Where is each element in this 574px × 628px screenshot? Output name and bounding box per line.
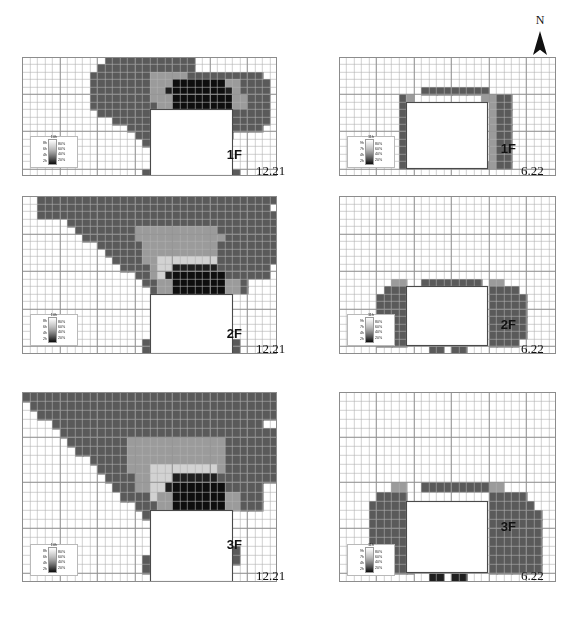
legend-summer: 9h 7h 4h 2h 80% 60% 40% 20% 11h — [347, 544, 395, 576]
legend-gradient-bar — [365, 547, 374, 573]
floor-label: 1F — [227, 147, 242, 162]
date-label-1f-winter: 12.21 — [256, 163, 285, 179]
legend-hour-tick: 8h — [43, 142, 47, 146]
legend-hour-tick: 8h — [43, 550, 47, 554]
legend-hour-tick: 6h — [43, 326, 47, 330]
floor-label: 1F — [501, 141, 516, 156]
panel-2f-winter: 2F 8h 6h 4h 2h 80% 60% 40% 20% 10h — [22, 196, 277, 354]
legend-percent-tick: 40% — [375, 153, 382, 157]
legend-hour-tick: 9h — [360, 550, 364, 554]
north-arrow: N — [523, 14, 557, 60]
legend-percent-tick: 60% — [375, 326, 382, 330]
legend-winter: 8h 6h 4h 2h 80% 60% 40% 20% 10h — [30, 314, 78, 346]
figure-canvas: N 1F 8h 6h 4h 2h 80% 60% 40% 20% — [0, 0, 574, 628]
legend-hour-tick: 9h — [360, 142, 364, 146]
legend-percent-tick: 80% — [58, 321, 65, 325]
legend-summer: 9h 7h 4h 2h 80% 60% 40% 20% 11h — [347, 136, 395, 168]
panel-1f-summer: 1F 9h 7h 4h 2h 80% 60% 40% 20% 11h — [339, 57, 556, 176]
legend-summer: 9h 7h 4h 2h 80% 60% 40% 20% 11h — [347, 314, 395, 346]
floor-label: 3F — [227, 537, 242, 552]
legend-percent-tick: 20% — [375, 337, 382, 341]
legend-hour-tick: 7h — [360, 148, 364, 152]
legend-gradient-bar — [365, 317, 374, 343]
legend-top-label: 11h — [368, 135, 374, 139]
floor-label: 3F — [501, 519, 516, 534]
legend-percent-tick: 80% — [375, 551, 382, 555]
legend-top-label: 11h — [368, 543, 374, 547]
panel-3f-winter: 3F 8h 6h 4h 2h 80% 60% 40% 20% 10h — [22, 392, 277, 582]
date-label-3f-winter: 12.21 — [256, 568, 285, 584]
legend-hour-tick: 4h — [360, 332, 364, 336]
legend-percent-tick: 80% — [375, 143, 382, 147]
legend-gradient-bar — [48, 139, 57, 165]
legend-percent-tick: 20% — [58, 567, 65, 571]
legend-hour-tick: 6h — [43, 556, 47, 560]
legend-hour-tick: 4h — [43, 154, 47, 158]
panel-1f-winter: 1F 8h 6h 4h 2h 80% 60% 40% 20% 10h — [22, 57, 277, 176]
legend-hour-tick: 2h — [43, 160, 47, 164]
legend-winter: 8h 6h 4h 2h 80% 60% 40% 20% 10h — [30, 136, 78, 168]
north-label: N — [523, 14, 557, 26]
legend-hour-tick: 2h — [360, 160, 364, 164]
legend-percent-tick: 20% — [375, 567, 382, 571]
legend-hour-tick: 2h — [360, 568, 364, 572]
panel-3f-summer: 3F 9h 7h 4h 2h 80% 60% 40% 20% 11h — [339, 392, 556, 582]
legend-percent-tick: 60% — [58, 148, 65, 152]
legend-percent-tick: 40% — [58, 561, 65, 565]
legend-hour-tick: 2h — [43, 338, 47, 342]
legend-top-label: 10h — [51, 543, 57, 547]
legend-percent-tick: 80% — [58, 143, 65, 147]
floor-label: 2F — [227, 326, 242, 341]
legend-percent-tick: 20% — [58, 337, 65, 341]
floor-label: 2F — [501, 317, 516, 332]
legend-hour-tick: 2h — [360, 338, 364, 342]
legend-hour-tick: 6h — [43, 148, 47, 152]
legend-percent-tick: 40% — [58, 331, 65, 335]
legend-gradient-bar — [48, 317, 57, 343]
legend-percent-tick: 60% — [58, 326, 65, 330]
legend-hour-tick: 8h — [43, 320, 47, 324]
legend-percent-tick: 80% — [375, 321, 382, 325]
legend-gradient-bar — [48, 547, 57, 573]
legend-hour-tick: 4h — [43, 562, 47, 566]
date-label-3f-summer: 6.22 — [521, 568, 544, 584]
legend-gradient-bar — [365, 139, 374, 165]
legend-hour-tick: 7h — [360, 326, 364, 330]
legend-percent-tick: 60% — [375, 556, 382, 560]
legend-top-label: 10h — [51, 135, 57, 139]
panel-2f-summer: 2F 9h 7h 4h 2h 80% 60% 40% 20% 11h — [339, 196, 556, 354]
legend-percent-tick: 40% — [58, 153, 65, 157]
date-label-2f-winter: 12.21 — [256, 341, 285, 357]
legend-hour-tick: 4h — [43, 332, 47, 336]
legend-percent-tick: 20% — [58, 159, 65, 163]
legend-percent-tick: 80% — [58, 551, 65, 555]
north-arrow-icon — [533, 31, 547, 55]
date-label-2f-summer: 6.22 — [521, 341, 544, 357]
date-label-1f-summer: 6.22 — [521, 163, 544, 179]
legend-winter: 8h 6h 4h 2h 80% 60% 40% 20% 10h — [30, 544, 78, 576]
legend-hour-tick: 4h — [360, 154, 364, 158]
legend-percent-tick: 40% — [375, 561, 382, 565]
legend-top-label: 10h — [51, 313, 57, 317]
legend-percent-tick: 40% — [375, 331, 382, 335]
legend-hour-tick: 7h — [360, 556, 364, 560]
legend-percent-tick: 60% — [58, 556, 65, 560]
legend-hour-tick: 4h — [360, 562, 364, 566]
legend-percent-tick: 60% — [375, 148, 382, 152]
legend-hour-tick: 2h — [43, 568, 47, 572]
legend-hour-tick: 9h — [360, 320, 364, 324]
legend-top-label: 11h — [368, 313, 374, 317]
legend-percent-tick: 20% — [375, 159, 382, 163]
